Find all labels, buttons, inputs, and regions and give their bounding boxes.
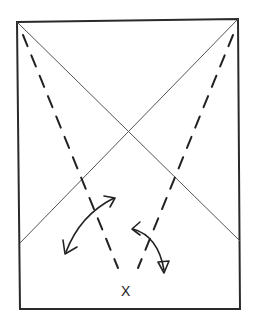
paper-frame xyxy=(17,19,240,309)
double-arrow-icon xyxy=(63,196,115,254)
fold-line-left xyxy=(23,35,118,268)
diagonal-line-2 xyxy=(20,19,238,243)
bend-arrow-icon xyxy=(132,222,169,273)
fold-diagram: X xyxy=(0,0,256,330)
fold-line-right xyxy=(138,35,233,268)
point-x-label: X xyxy=(121,283,131,299)
